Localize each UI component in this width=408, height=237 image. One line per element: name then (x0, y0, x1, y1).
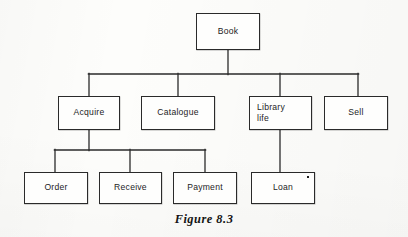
node-loan-label: Loan (273, 182, 293, 193)
node-order: Order (24, 172, 88, 204)
node-catalogue: Catalogue (141, 96, 215, 130)
node-order-label: Order (44, 182, 67, 193)
node-payment-label: Payment (187, 182, 223, 193)
node-receive: Receive (99, 172, 162, 204)
figure-caption: Figure 8.3 (0, 212, 408, 227)
node-book-label: Book (218, 26, 239, 37)
node-acquire: Acquire (58, 96, 120, 130)
node-receive-label: Receive (114, 182, 147, 193)
node-payment: Payment (173, 172, 237, 204)
node-library-life-label: Library life (257, 102, 285, 125)
node-library-life: Library life (249, 96, 312, 130)
node-book: Book (196, 13, 260, 50)
node-loan: Loan (251, 172, 315, 204)
node-catalogue-label: Catalogue (157, 107, 198, 118)
node-sell-label: Sell (348, 107, 363, 118)
asterisk-marker-icon (307, 176, 309, 178)
node-acquire-label: Acquire (74, 107, 105, 118)
node-sell: Sell (324, 96, 388, 130)
figure-8-3-diagram: Book Acquire Catalogue Library life Sell… (0, 0, 408, 237)
